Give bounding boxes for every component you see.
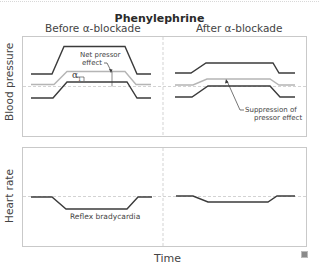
x-axis-label-time: Time — [154, 252, 181, 265]
hr-before-trace — [31, 197, 152, 209]
diagram-graphics — [0, 0, 319, 276]
bp-after-mean-trace — [175, 79, 295, 85]
bp-after-diastolic-trace — [175, 86, 295, 97]
suppression-label-line2: pressor effect — [254, 114, 302, 122]
image-enlarge-icon[interactable] — [301, 251, 308, 258]
net-pressor-label-line1: Net pressor — [80, 51, 120, 59]
alpha1-subscript: 1 — [78, 76, 81, 82]
bp-after-systolic-trace — [175, 63, 295, 73]
phenylephrine-diagram: Phenylephrine Before α-blockade After α-… — [0, 0, 319, 276]
net-pressor-label-line2: effect — [82, 59, 102, 67]
alpha1-label: α1 — [72, 70, 81, 82]
reflex-bradycardia-label: Reflex bradycardia — [70, 213, 140, 221]
heart-rate-panel — [23, 148, 307, 247]
suppression-label-line1: Suppression of — [245, 106, 297, 114]
